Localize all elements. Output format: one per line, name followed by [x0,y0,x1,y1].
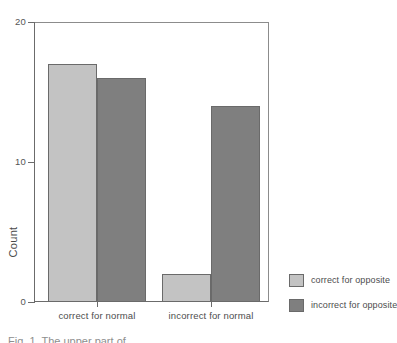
x-tick-mark-incorrect-normal [211,302,212,307]
bar-incorrect-normal-incorrect-opposite [211,106,260,302]
x-tick-mark-correct-normal [97,302,98,307]
legend-swatch-correct-for-opposite [289,274,304,287]
legend-item-incorrect-for-opposite: incorrect for opposite [289,295,395,315]
y-tick-label-20-wrap: 20 [0,17,26,27]
bars-layer [34,22,269,302]
y-axis-title: Count [7,207,19,277]
y-tick-label-0-wrap: 0 [0,297,26,307]
bar-correct-normal-correct-opposite [48,64,97,302]
legend-label-incorrect-for-opposite: incorrect for opposite [311,300,397,311]
y-tick-label-10-wrap: 10 [0,157,26,167]
legend-swatch-incorrect-for-opposite [289,299,304,312]
y-tick-label-0: 0 [0,297,26,307]
y-tick-mark-0 [28,302,35,303]
figure-caption-clipped: Fig. 1. The upper part of [8,335,248,343]
legend-item-correct-for-opposite: correct for opposite [289,270,395,290]
legend-label-correct-for-opposite: correct for opposite [311,275,390,286]
figure-caption-text: Fig. 1. The upper part of [8,335,248,343]
y-tick-label-10: 10 [0,157,26,167]
chart-legend: correct for opposite incorrect for oppos… [289,270,395,320]
bar-correct-normal-incorrect-opposite [97,78,146,302]
y-tick-label-20: 20 [0,17,26,27]
x-tick-label-incorrect-normal: incorrect for normal [141,310,281,321]
bar-incorrect-normal-correct-opposite [162,274,211,302]
